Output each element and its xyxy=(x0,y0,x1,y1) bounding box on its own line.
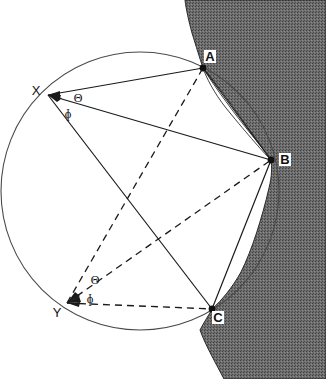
point-label-x: X xyxy=(32,83,41,98)
point-marker-a[interactable] xyxy=(200,65,207,72)
angle-phi-at-x: ɸ xyxy=(65,107,72,121)
angle-theta-at-y: Θ xyxy=(91,273,100,287)
arrowheads-at-x xyxy=(48,91,62,102)
ray-y-to-a xyxy=(67,68,203,303)
angle-phi-at-y: ɸ xyxy=(87,292,94,306)
ray-x-to-a xyxy=(48,68,203,95)
point-label-y: Y xyxy=(53,305,62,320)
ray-x-to-c xyxy=(48,95,212,309)
angle-theta-at-x: Θ xyxy=(74,91,83,105)
point-label-b: B xyxy=(280,152,289,167)
geometry-diagram: A B C X Y Θ ɸ Θ ɸ xyxy=(0,0,326,379)
figure-root: A B C X Y Θ ɸ Θ ɸ xyxy=(0,0,326,379)
point-marker-b[interactable] xyxy=(268,157,275,164)
point-label-c: C xyxy=(213,310,223,325)
point-label-a: A xyxy=(205,49,215,64)
